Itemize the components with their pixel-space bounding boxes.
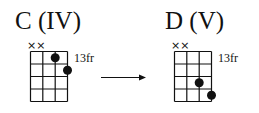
chord-grid-c-iv	[31, 52, 68, 102]
chord-grid-d-v	[175, 52, 212, 102]
finger-dot	[51, 53, 60, 62]
finger-dot	[207, 91, 216, 100]
chord-diagrams-graphic	[0, 0, 259, 113]
finger-dot	[195, 78, 204, 87]
transition-arrow-icon	[101, 75, 146, 81]
finger-dot	[63, 66, 72, 75]
